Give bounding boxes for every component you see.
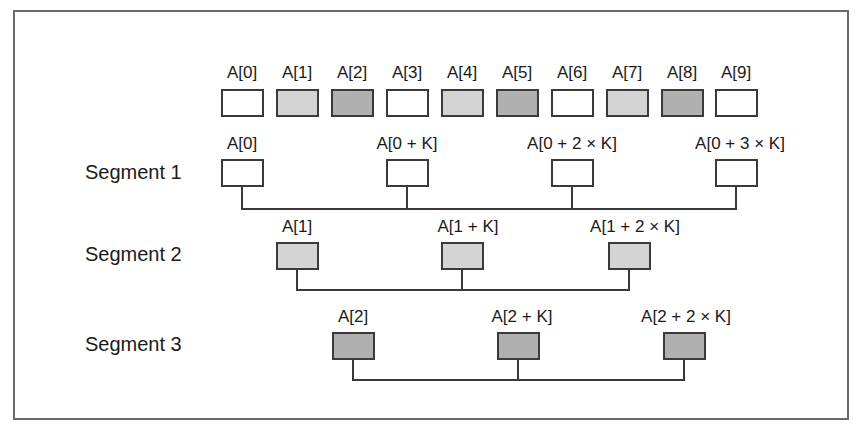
segment-element (276, 242, 319, 270)
array-cell-label: A[8] (667, 63, 697, 83)
array-cell-label: A[3] (392, 63, 422, 83)
array-cell (331, 89, 374, 117)
segment-title: Segment 1 (85, 160, 182, 184)
connector (571, 187, 573, 210)
array-cell (441, 89, 484, 117)
segment-element-label: A[0 + 3 × K] (695, 134, 785, 154)
array-cell-label: A[7] (612, 63, 642, 83)
segment-element (441, 242, 484, 270)
segment-element (386, 159, 429, 187)
connector (461, 270, 463, 291)
connector (352, 360, 354, 381)
connector (296, 270, 298, 291)
segment-element-label: A[1 + 2 × K] (590, 217, 680, 237)
array-cell-label: A[6] (557, 63, 587, 83)
segment-element-label: A[2 + K] (492, 307, 553, 327)
segment-element (715, 159, 758, 187)
segment-element-label: A[2] (338, 307, 368, 327)
array-cell (386, 89, 429, 117)
segment-element-label: A[0 + K] (377, 134, 438, 154)
segment-element (332, 332, 375, 360)
segment-element (551, 159, 594, 187)
array-cell (715, 89, 758, 117)
array-cell (606, 89, 649, 117)
connector (628, 270, 630, 291)
segment-bus (296, 289, 630, 291)
segment-bus (241, 208, 737, 210)
connector (517, 360, 519, 381)
connector (406, 187, 408, 210)
segment-title: Segment 2 (85, 242, 182, 266)
array-cell-label: A[4] (447, 63, 477, 83)
array-cell (496, 89, 539, 117)
segment-element (221, 159, 264, 187)
segment-element (497, 332, 540, 360)
segment-title: Segment 3 (85, 332, 182, 356)
segment-element-label: A[0 + 2 × K] (527, 134, 617, 154)
array-cell-label: A[5] (502, 63, 532, 83)
connector (241, 187, 243, 210)
array-cell-label: A[9] (721, 63, 751, 83)
array-cell (276, 89, 319, 117)
segment-element-label: A[2 + 2 × K] (641, 307, 731, 327)
array-cell (661, 89, 704, 117)
segment-element-label: A[0] (227, 134, 257, 154)
connector (735, 187, 737, 210)
array-cell-label: A[2] (337, 63, 367, 83)
segment-element-label: A[1 + K] (438, 217, 499, 237)
segment-element (663, 332, 706, 360)
connector (683, 360, 685, 381)
segment-element-label: A[1] (282, 217, 312, 237)
array-cell-label: A[1] (282, 63, 312, 83)
segment-bus (352, 379, 685, 381)
segment-element (608, 242, 651, 270)
array-cell (221, 89, 264, 117)
array-cell (551, 89, 594, 117)
array-cell-label: A[0] (227, 63, 257, 83)
